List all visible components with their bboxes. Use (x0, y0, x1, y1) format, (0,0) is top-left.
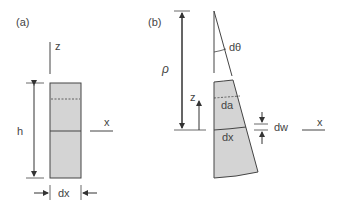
z-label: z (55, 40, 61, 52)
rho-label: ρ (161, 62, 169, 76)
panel-a-label: (a) (16, 16, 29, 28)
dtheta-label: dθ (229, 41, 241, 53)
h-label: h (17, 125, 23, 137)
dx-label: dx (222, 131, 234, 143)
z-label: z (190, 91, 196, 103)
panel-b-label: (b) (148, 16, 161, 28)
dtheta-arc (214, 49, 226, 52)
panel-b: (b) ρ dθ da dx z dw x (148, 11, 325, 178)
bent-beam-element (214, 80, 258, 178)
dw-label: dw (274, 121, 288, 133)
beam-bending-diagram: (a) z x h dx (b) ρ dθ da dx z (0, 0, 341, 213)
x-label: x (317, 116, 323, 128)
da-label: da (221, 99, 234, 111)
x-label: x (104, 116, 110, 128)
dx-label: dx (58, 187, 70, 199)
panel-a: (a) z x h dx (16, 16, 113, 200)
